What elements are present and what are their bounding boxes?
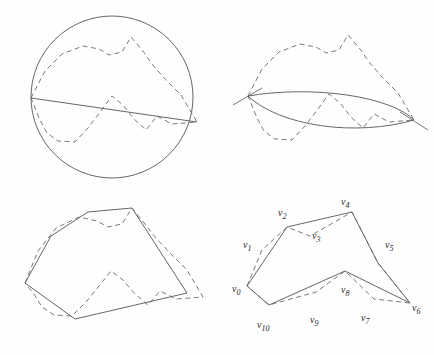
geometric-figure: v0v1v2v3v4v5v6v7v8v9v10 bbox=[0, 0, 434, 355]
labeled-polygon-solid-polygon bbox=[247, 212, 410, 305]
vertex-label-subscript: 8 bbox=[345, 289, 349, 298]
vertex-label-v10: v10 bbox=[257, 320, 269, 333]
vertex-label-v8: v8 bbox=[341, 285, 349, 298]
vertex-label-subscript: 5 bbox=[389, 244, 393, 253]
lens-two-arcs-tick-right bbox=[400, 112, 428, 130]
vertex-label-v3: v3 bbox=[312, 231, 320, 244]
vertex-label-v4: v4 bbox=[341, 197, 349, 210]
vertex-label-v2: v2 bbox=[278, 208, 286, 221]
vertex-label-v6: v6 bbox=[412, 303, 420, 316]
vertex-label-subscript: 1 bbox=[247, 244, 251, 253]
vertex-label-subscript: 4 bbox=[345, 201, 349, 210]
lens-two-arcs-arc-lower bbox=[248, 96, 414, 128]
circle-with-chord-dashed-polygon bbox=[31, 37, 197, 142]
vertex-label-subscript: 7 bbox=[365, 317, 369, 326]
circle-with-chord-chord bbox=[31, 98, 197, 122]
vertex-label-subscript: 9 bbox=[314, 319, 318, 328]
lens-two-arcs-dashed-polygon bbox=[248, 35, 414, 140]
vertex-label-subscript: 10 bbox=[261, 324, 269, 333]
figure-canvas bbox=[0, 0, 434, 355]
vertex-label-v7: v7 bbox=[361, 313, 369, 326]
vertex-label-v9: v9 bbox=[310, 315, 318, 328]
vertex-label-v0: v0 bbox=[232, 284, 240, 297]
vertex-label-subscript: 3 bbox=[316, 235, 320, 244]
convex-hull-polygon-solid-polygon bbox=[25, 208, 187, 319]
vertex-label-subscript: 2 bbox=[282, 212, 286, 221]
vertex-label-subscript: 0 bbox=[236, 288, 240, 297]
vertex-label-v5: v5 bbox=[385, 240, 393, 253]
convex-hull-polygon-dashed-polygon bbox=[25, 208, 203, 316]
circle-with-chord-circle bbox=[31, 16, 193, 178]
vertex-label-v1: v1 bbox=[243, 240, 251, 253]
vertex-label-subscript: 6 bbox=[416, 307, 420, 316]
lens-two-arcs-tick-left bbox=[233, 88, 262, 105]
